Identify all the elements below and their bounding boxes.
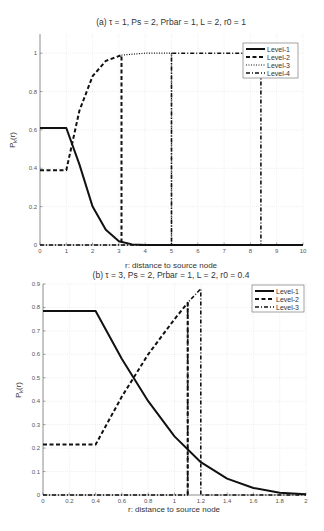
- x-tick-label: 0.2: [65, 498, 74, 504]
- y-tick-label: 1: [34, 50, 38, 56]
- legend-label: Level-1: [267, 46, 290, 53]
- x-tick-label: 2: [304, 498, 308, 504]
- legend-label: Level-4: [267, 70, 290, 77]
- legend-label: Level-2: [276, 296, 299, 303]
- x-tick-label: 9: [275, 248, 279, 254]
- x-tick-label: 2: [91, 248, 95, 254]
- chart-panel-a: (a) τ = 1, Ps = 2, Prbar = 1, L = 2, r0 …: [8, 17, 307, 270]
- y-tick-label: 0.5: [32, 375, 41, 381]
- y-tick-label: 0.3: [32, 422, 41, 428]
- axes-b: 00.20.40.60.811.21.41.61.8200.10.20.30.4…: [32, 281, 309, 504]
- x-tick-label: 3: [117, 248, 121, 254]
- x-tick-label: 7: [222, 248, 226, 254]
- legend-label: Level-1: [276, 288, 299, 295]
- legend-a: Level-1Level-2Level-3Level-4: [243, 43, 298, 78]
- x-tick-label: 1.4: [223, 498, 232, 504]
- x-tick-label: 8: [249, 248, 253, 254]
- chart-title-b: (b) τ = 3, Ps = 2, Prbar = 1, L = 2, r0 …: [93, 270, 250, 280]
- y-tick-label: 0: [34, 242, 38, 248]
- x-tick-label: 0: [38, 248, 42, 254]
- series-line-level-2: [43, 303, 188, 495]
- x-tick-label: 10: [300, 248, 307, 254]
- series-a: [40, 53, 303, 245]
- y-tick-label: 0.2: [29, 204, 38, 210]
- legend-label: Level-3: [267, 62, 290, 69]
- series-line-level-2: [40, 55, 122, 245]
- y-tick-label: 0.1: [32, 469, 41, 475]
- x-axis-label-b: r: distance to source node: [128, 505, 221, 514]
- legend-label: Level-2: [267, 54, 290, 61]
- y-tick-label: 0.6: [32, 351, 41, 357]
- figure: (a) τ = 1, Ps = 2, Prbar = 1, L = 2, r0 …: [0, 0, 324, 531]
- chart-title-a: (a) τ = 1, Ps = 2, Prbar = 1, L = 2, r0 …: [96, 17, 246, 27]
- x-tick-label: 1.6: [249, 498, 258, 504]
- y-tick-label: 0.2: [32, 445, 41, 451]
- x-tick-label: 0.4: [91, 498, 100, 504]
- x-tick-label: 1.8: [276, 498, 285, 504]
- x-tick-label: 1.2: [197, 498, 206, 504]
- x-tick-label: 0.8: [144, 498, 153, 504]
- series-line-level-3: [122, 53, 172, 245]
- y-axis-label-b: Pk(r): [14, 382, 24, 398]
- x-axis-label-a: r: distance to source node: [125, 261, 218, 270]
- x-tick-label: 0.6: [118, 498, 127, 504]
- legend-b: Level-1Level-2Level-3: [252, 285, 304, 312]
- legend-label: Level-3: [276, 304, 299, 311]
- y-tick-label: 0.7: [32, 328, 41, 334]
- y-tick-label: 0: [37, 492, 41, 498]
- y-tick-label: 0.4: [29, 165, 38, 171]
- grid-b: [43, 284, 306, 495]
- y-tick-label: 0.4: [32, 398, 41, 404]
- x-tick-label: 5: [170, 248, 174, 254]
- y-tick-label: 0.9: [32, 281, 41, 287]
- y-tick-label: 0.8: [29, 89, 38, 95]
- y-tick-label: 0.6: [29, 127, 38, 133]
- x-tick-label: 6: [196, 248, 200, 254]
- y-tick-label: 0.8: [32, 304, 41, 310]
- y-axis-label-a: Pk(r): [8, 132, 18, 148]
- x-tick-label: 1: [65, 248, 69, 254]
- chart-panel-b: (b) τ = 3, Ps = 2, Prbar = 1, L = 2, r0 …: [14, 270, 308, 514]
- x-tick-label: 0: [41, 498, 45, 504]
- x-tick-label: 1: [173, 498, 177, 504]
- x-tick-label: 4: [144, 248, 148, 254]
